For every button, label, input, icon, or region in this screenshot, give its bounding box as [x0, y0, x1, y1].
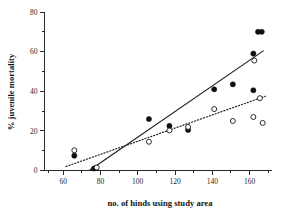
open-circle-point: [257, 96, 262, 101]
x-tick-label: 80: [97, 177, 105, 186]
y-tick-label: 60: [30, 47, 38, 56]
dotted-fit-line: [66, 96, 266, 166]
open-circle-point: [167, 128, 172, 133]
open-circle-point: [260, 120, 265, 125]
filled-circle-point: [146, 116, 151, 121]
filled-circle-point: [251, 88, 256, 93]
open-circle-point: [146, 139, 151, 144]
filled-circle-point: [251, 51, 256, 56]
open-circle-point: [230, 118, 235, 123]
x-tick-label: 100: [132, 177, 144, 186]
x-tick-label: 120: [169, 177, 181, 186]
scatter-plot: 020406080 6080100120140160 no. of hinds …: [0, 0, 283, 216]
open-circle-point: [186, 124, 191, 129]
x-axis-ticks: 6080100120140160: [48, 171, 268, 187]
filled-circle-point: [72, 153, 77, 158]
axes: [45, 12, 273, 171]
solid-fit-line: [89, 51, 263, 171]
filled-circle-point: [230, 82, 235, 87]
x-tick-label: 140: [207, 177, 219, 186]
x-tick-label: 160: [244, 177, 256, 186]
y-tick-label: 20: [30, 127, 38, 136]
open-circle-point: [72, 148, 77, 153]
open-circle-point: [251, 115, 256, 120]
open-circle-point: [252, 58, 257, 63]
y-axis-ticks: 020406080: [30, 8, 45, 176]
filled-circle-point: [212, 87, 217, 92]
y-tick-label: 80: [30, 8, 38, 17]
x-tick-label: 60: [59, 177, 67, 186]
x-axis-title: no. of hinds using study area: [108, 198, 214, 208]
y-tick-label: 40: [30, 87, 38, 96]
y-tick-label: 0: [34, 166, 38, 175]
open-circle-point: [212, 107, 217, 112]
open-circle-point: [94, 165, 99, 170]
data-points: [72, 29, 265, 171]
y-axis-title: % juvenile mortality: [6, 53, 16, 130]
filled-circle-point: [259, 29, 264, 34]
chart-figure: 020406080 6080100120140160 no. of hinds …: [0, 0, 283, 216]
regression-lines: [66, 51, 266, 171]
